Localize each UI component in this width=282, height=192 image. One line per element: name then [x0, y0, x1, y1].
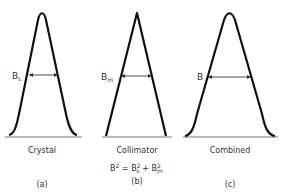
figure-label-c: (c) [225, 180, 236, 189]
width-label-bc: Bc [12, 71, 22, 82]
panel-a-crystal: Bc Crystal (a) [5, 13, 82, 189]
panel-c-combined: B Combined (c) [183, 13, 278, 189]
collimator-profile-triangle [106, 13, 166, 136]
caption-crystal: Crystal [28, 146, 56, 155]
figure-label-b: (b) [131, 177, 142, 186]
caption-combined: Combined [210, 146, 251, 155]
figure-label-a: (a) [36, 180, 47, 189]
equation-b: B2 = B2c + B2m [110, 162, 163, 174]
width-label-b: B [197, 72, 203, 82]
diffraction-profile-diagram: Bc Crystal (a) Bm Collimator B2 = B2c + … [0, 0, 282, 192]
width-label-bm: Bm [101, 72, 113, 83]
caption-collimator: Collimator [116, 146, 158, 155]
panel-b-collimator: Bm Collimator B2 = B2c + B2m (b) [101, 13, 172, 186]
